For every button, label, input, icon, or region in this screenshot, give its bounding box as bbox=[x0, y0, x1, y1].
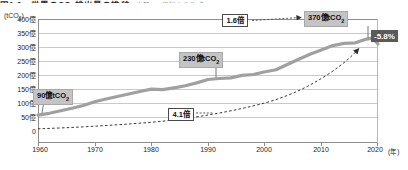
annotation-chip-start-text: 90億tCO2 bbox=[37, 91, 69, 100]
annotation-chip-mid-text: 230億tCO2 bbox=[183, 54, 219, 63]
annotation-box-ratio-lower: 4.1倍 bbox=[168, 108, 194, 121]
annotation-chip-start-value: 90億tCO2 bbox=[33, 89, 73, 105]
annotation-arrow-upper bbox=[252, 18, 300, 21]
annotation-chip-mid-value: 230億tCO2 bbox=[179, 52, 223, 68]
annotation-chip-end-text: 370億tCO2 bbox=[308, 13, 344, 22]
annotation-box-ratio-lower-text: 4.1倍 bbox=[173, 110, 190, 119]
figure-co2-emissions: 図1-2 世界のCO2排出量の推移(出所:IEA資料より作成) (tCO2) 4… bbox=[0, 0, 408, 170]
series-line-total-emissions bbox=[38, 38, 378, 115]
status-badge-decline: -5.8% bbox=[371, 30, 398, 42]
status-badge-decline-text: -5.8% bbox=[374, 32, 395, 41]
annotation-chip-end-value: 370億tCO2 bbox=[304, 11, 348, 27]
annotation-box-ratio-upper-text: 1.6倍 bbox=[227, 16, 244, 25]
annotation-box-ratio-upper: 1.6倍 bbox=[222, 14, 248, 27]
